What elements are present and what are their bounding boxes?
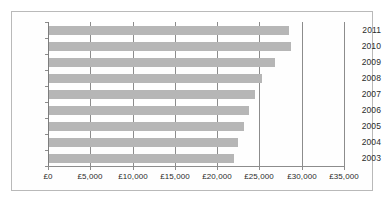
y-axis-tick-label: 2006 (344, 105, 388, 115)
y-axis-tick-label: 2004 (344, 137, 388, 147)
y-axis-tick-label: 2003 (344, 153, 388, 163)
x-axis-tick-label: £30,000 (287, 172, 317, 181)
y-axis-tick-label: 2009 (344, 57, 388, 67)
x-axis-tick-label: £0 (43, 172, 52, 181)
y-axis-tick-label: 2005 (344, 121, 388, 131)
x-axis-tick-label: £5,000 (77, 172, 102, 181)
axis-labels-layer: £0£5,000£10,000£15,000£20,000£25,000£30,… (0, 0, 388, 207)
x-axis-tick-label: £15,000 (160, 172, 190, 181)
y-axis-tick-label: 2008 (344, 73, 388, 83)
y-axis-tick-label: 2007 (344, 89, 388, 99)
x-axis-tick-label: £25,000 (244, 172, 274, 181)
bar-chart: £0£5,000£10,000£15,000£20,000£25,000£30,… (0, 0, 388, 207)
y-axis-tick-label: 2011 (344, 25, 388, 35)
y-axis-tick-label: 2010 (344, 41, 388, 51)
chart-page: £0£5,000£10,000£15,000£20,000£25,000£30,… (0, 0, 388, 207)
x-axis-tick-label: £10,000 (118, 172, 148, 181)
x-axis-line (48, 166, 345, 167)
x-axis-tick-label: £35,000 (329, 172, 359, 181)
x-axis-tick-label: £20,000 (202, 172, 232, 181)
